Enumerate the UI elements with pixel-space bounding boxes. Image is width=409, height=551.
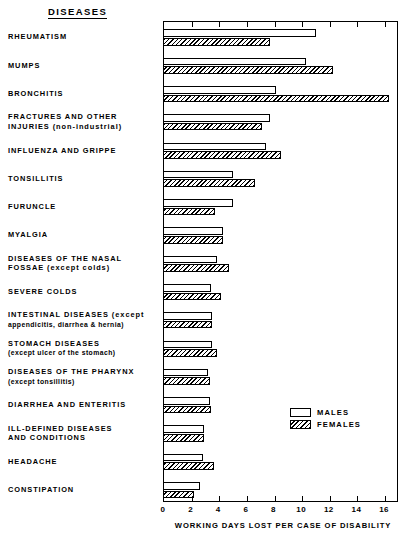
bar-male [164, 227, 223, 235]
category-label-line: MUMPS [8, 61, 160, 71]
legend-item: MALES [290, 408, 390, 417]
bar-female [164, 406, 211, 414]
category-label: DIARRHEA AND ENTERITIS [8, 400, 160, 410]
bar-male [164, 58, 306, 66]
category-label: RHEUMATISM [8, 32, 160, 42]
category-labels-column: RHEUMATISMMUMPSBRONCHITISFRACTURES AND O… [8, 24, 160, 502]
legend-label: FEMALES [317, 420, 361, 429]
bar-male [164, 397, 210, 405]
x-tick-label: 2 [188, 505, 193, 514]
x-tick-label: 14 [352, 505, 362, 514]
category-label-line: MYALGIA [8, 230, 160, 240]
category-label-line: AND CONDITIONS [8, 433, 160, 443]
x-axis-tick-labels: 0246810121416 [163, 505, 409, 519]
category-label: STOMACH DISEASES(except ulcer of the sto… [8, 339, 160, 358]
x-tick-label: 0 [161, 505, 166, 514]
bar-male [164, 454, 203, 462]
x-tick-top [357, 22, 358, 27]
category-label-line: TONSILLITIS [8, 174, 160, 184]
x-tick-top [330, 22, 331, 27]
x-tick-bottom [330, 496, 331, 501]
x-tick-bottom [302, 496, 303, 501]
category-label-line: INFLUENZA AND GRIPPE [8, 146, 160, 156]
legend-label: MALES [317, 408, 349, 417]
bar-female [164, 236, 223, 244]
x-tick-top [385, 22, 386, 27]
bar-female [164, 377, 210, 385]
diseases-column-header: DISEASES [48, 7, 107, 19]
bar-male [164, 284, 211, 292]
category-label: BRONCHITIS [8, 89, 160, 99]
category-label-line: SEVERE COLDS [8, 287, 160, 297]
category-label-line: HEADACHE [8, 457, 160, 467]
x-tick-bottom [247, 496, 248, 501]
x-tick-top [219, 22, 220, 27]
x-tick-bottom [385, 496, 386, 501]
legend-swatch-males [290, 408, 311, 417]
category-label: FRACTURES AND OTHERINJURIES (non-industr… [8, 112, 160, 131]
bar-chart-figure: DISEASES RHEUMATISMMUMPSBRONCHITISFRACTU… [0, 0, 409, 551]
bar-male [164, 171, 233, 179]
x-tick-bottom [219, 496, 220, 501]
x-tick-top [247, 22, 248, 27]
bar-female [164, 179, 255, 187]
category-label: HEADACHE [8, 457, 160, 467]
bar-female [164, 208, 215, 216]
bar-male [164, 312, 212, 320]
bar-male [164, 482, 200, 490]
category-label: ILL-DEFINED DISEASESAND CONDITIONS [8, 424, 160, 443]
x-tick-bottom [275, 496, 276, 501]
category-label: CONSTIPATION [8, 485, 160, 495]
bar-male [164, 256, 217, 264]
x-tick-bottom [357, 496, 358, 501]
category-label: SEVERE COLDS [8, 287, 160, 297]
x-tick-label: 16 [379, 505, 389, 514]
bar-male [164, 199, 233, 207]
category-label: MUMPS [8, 61, 160, 71]
category-label-line: FRACTURES AND OTHER [8, 112, 160, 122]
bar-female [164, 95, 389, 103]
x-tick-top [302, 22, 303, 27]
bar-male [164, 114, 270, 122]
legend-swatch-females [290, 420, 311, 429]
bar-female [164, 349, 217, 357]
bar-male [164, 341, 212, 349]
legend-item: FEMALES [290, 420, 390, 429]
category-label: MYALGIA [8, 230, 160, 240]
x-tick-label: 6 [243, 505, 248, 514]
category-label: TONSILLITIS [8, 174, 160, 184]
x-tick-label: 12 [324, 505, 334, 514]
bar-female [164, 66, 333, 74]
category-label-line: (except tonsillitis) [8, 377, 160, 387]
chart-legend: MALESFEMALES [290, 408, 390, 432]
bar-female [164, 38, 270, 46]
bar-male [164, 425, 204, 433]
category-label-line: ILL-DEFINED DISEASES [8, 424, 160, 434]
x-tick-top [192, 22, 193, 27]
category-label-line: INTESTINAL DISEASES (except [8, 310, 160, 320]
category-label: INTESTINAL DISEASES (exceptappendicitis,… [8, 310, 160, 329]
category-label: DISEASES OF THE NASALFOSSAE (except cold… [8, 254, 160, 273]
category-label-line: INJURIES (non-industrial) [8, 122, 160, 132]
bar-female [164, 434, 204, 442]
bar-female [164, 123, 262, 131]
category-label: INFLUENZA AND GRIPPE [8, 146, 160, 156]
category-label-line: (except ulcer of the stomach) [8, 348, 160, 358]
x-tick-label: 4 [216, 505, 221, 514]
category-label-line: FOSSAE (except colds) [8, 263, 160, 273]
bar-male [164, 29, 316, 37]
x-axis-title: WORKING DAYS LOST PER CASE OF DISABILITY [163, 521, 403, 530]
bar-female [164, 491, 194, 499]
bar-male [164, 86, 276, 94]
category-label: DISEASES OF THE PHARYNX(except tonsillit… [8, 367, 160, 386]
bar-female [164, 462, 214, 470]
bar-female [164, 293, 221, 301]
category-label-line: DIARRHEA AND ENTERITIS [8, 400, 160, 410]
category-label-line: DISEASES OF THE PHARYNX [8, 367, 160, 377]
x-tick-top [275, 22, 276, 27]
x-tick-bottom [192, 496, 193, 501]
category-label-line: CONSTIPATION [8, 485, 160, 495]
category-label-line: appendicitis, diarrhea & hernia) [8, 320, 160, 330]
bar-male [164, 369, 208, 377]
category-label-line: FURUNCLE [8, 202, 160, 212]
